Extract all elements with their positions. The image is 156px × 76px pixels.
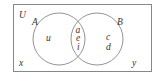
universe-rectangle: [14, 5, 152, 72]
outside-element: y: [131, 58, 137, 68]
set-b-label: B: [117, 17, 123, 27]
outside-element: x: [18, 58, 24, 68]
a-only-element: u: [46, 33, 51, 43]
intersection-element: i: [77, 42, 80, 52]
set-a-label: A: [31, 17, 38, 27]
venn-diagram: U A B u a e i c d x y: [0, 0, 156, 76]
b-only-element: c: [106, 32, 111, 42]
universe-label: U: [19, 10, 27, 20]
b-only-element: d: [106, 42, 111, 52]
